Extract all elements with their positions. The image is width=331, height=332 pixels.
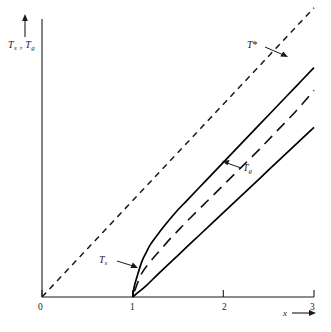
- y-axis-label: Ts , Tg: [8, 40, 35, 50]
- chart-plot-area: [0, 0, 331, 332]
- annotation-tg-sub: g: [249, 167, 253, 175]
- series-reference-line: [42, 8, 314, 297]
- x-tick-label-3: 3: [310, 303, 315, 313]
- series-ts-curve: [133, 68, 314, 297]
- y-axis-label-tg-sub: g: [31, 44, 35, 52]
- annotation-tstar-mark: *: [253, 39, 258, 50]
- x-tick-label-0: 0: [38, 303, 43, 313]
- annotation-ts-main: T: [99, 254, 105, 265]
- series-tstar-curve: [134, 90, 314, 291]
- x-axis-label: x: [283, 309, 287, 318]
- series-tg-curve: [133, 127, 314, 297]
- annotation-ts-sub: s: [105, 259, 108, 267]
- annotation-label-ts: Ts: [99, 255, 107, 265]
- annotation-arrow-tg: [222, 160, 241, 168]
- annotation-tg-main: T: [243, 162, 249, 173]
- y-axis-arrow-icon: [22, 14, 28, 37]
- x-axis-ticks: [42, 290, 314, 297]
- annotation-label-tstar: T*: [247, 40, 258, 50]
- x-tick-label-2: 2: [222, 303, 227, 313]
- y-axis-label-ts-main: T: [8, 39, 14, 50]
- figure-container: Ts , Tg x T* Tg Ts 0 1 2 3: [0, 0, 331, 332]
- x-tick-label-1: 1: [130, 303, 135, 313]
- x-axis-label-text: x: [283, 308, 287, 318]
- annotation-arrow-ts: [117, 261, 138, 268]
- y-axis-label-ts-sub: s: [14, 44, 17, 52]
- annotation-label-tg: Tg: [243, 163, 252, 173]
